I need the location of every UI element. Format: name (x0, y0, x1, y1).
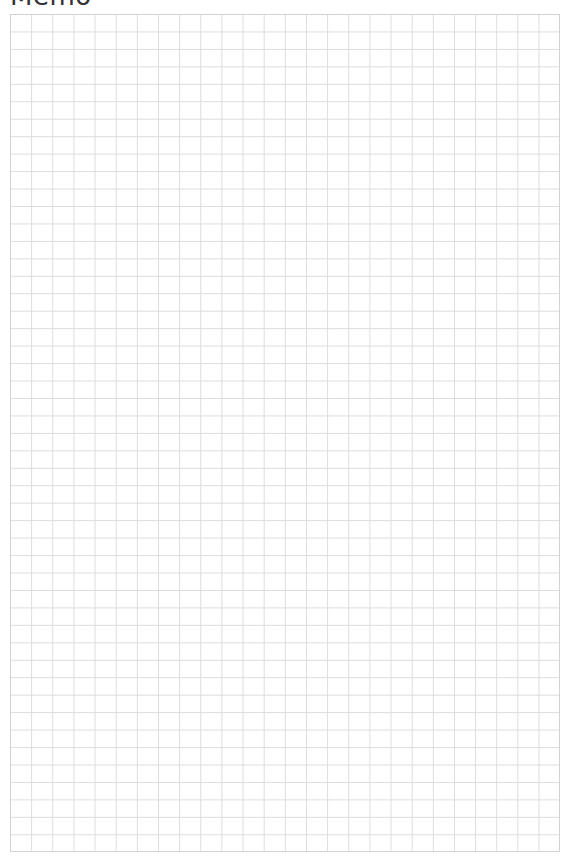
page-title: Memo (10, 0, 92, 9)
graph-paper-grid (10, 14, 560, 852)
